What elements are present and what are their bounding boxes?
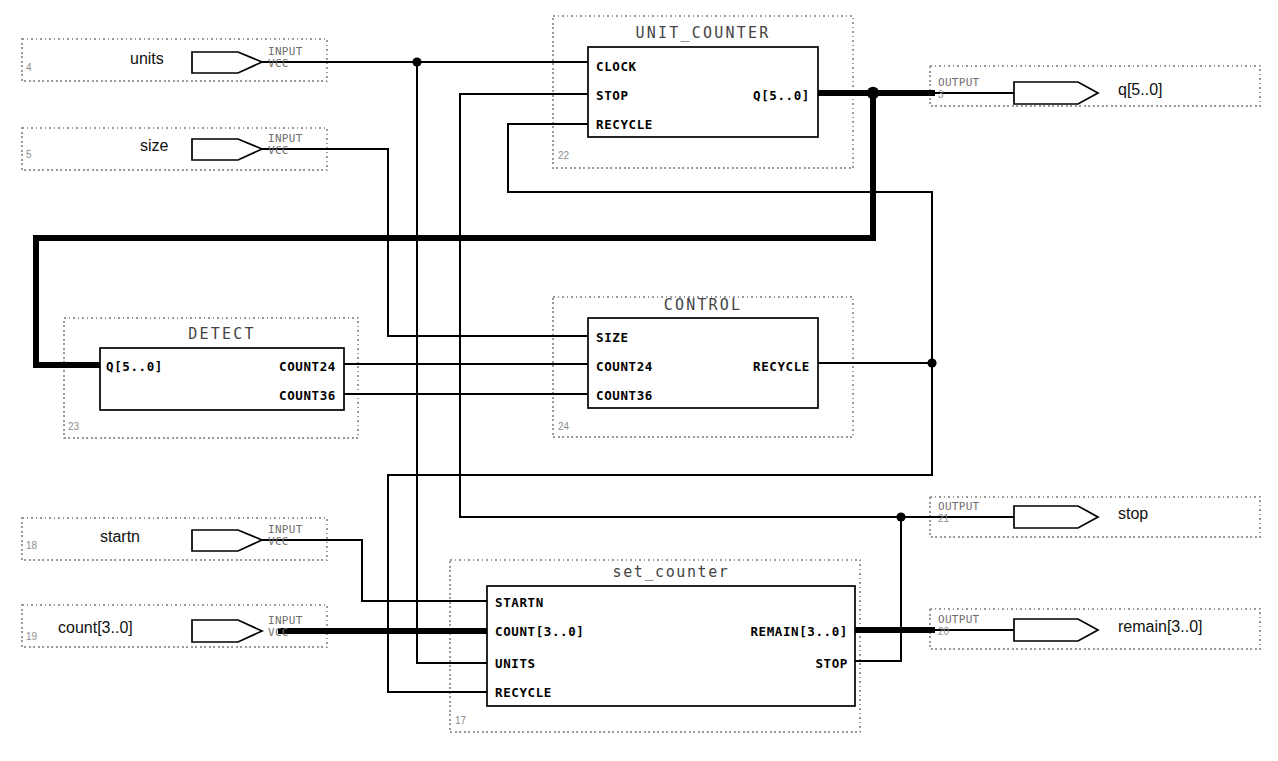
instance-id-control: 24 [558,421,569,432]
instance-id-unit-counter: 22 [558,150,569,161]
junction-units [412,57,421,66]
signal-name-count: count[3..0] [58,619,133,637]
port-unit-counter-clock: CLOCK [596,59,637,74]
port-control-count24: COUNT24 [596,359,653,374]
pin-type-units: INPUT [268,46,303,57]
block-title-unit-counter: UNIT_COUNTER [588,24,818,42]
pin-sub-count: VCC [268,627,289,638]
pin-type-remain: OUTPUT [938,614,980,625]
port-unit-counter-q: Q[5..0] [640,88,810,103]
pin-shape-remain[interactable] [1014,619,1098,641]
pin-type-q: OUTPUT [938,77,980,88]
port-set-counter-remain: REMAIN[3..0] [640,624,848,639]
pin-sub-startn: VCC [268,536,289,547]
net-size-to-control-size [262,149,588,336]
pin-type-stop: OUTPUT [938,501,980,512]
instance-id-output-stop: 21 [938,513,949,524]
pin-type-startn: INPUT [268,524,303,535]
instance-id-set-counter: 17 [455,715,466,726]
signal-name-q: q[5..0] [1118,81,1162,99]
net-set-counter-stop-out [855,517,901,661]
signal-name-startn: startn [100,528,140,546]
instance-id-input-startn: 18 [26,540,37,551]
port-control-recycle: RECYCLE [700,359,810,374]
pin-sub-size: VCC [268,145,289,156]
port-detect-count24: COUNT24 [180,359,336,374]
port-set-counter-units: UNITS [495,656,536,671]
instance-id-input-size: 5 [26,149,32,160]
instance-id-detect: 23 [68,421,79,432]
signal-name-stop: stop [1118,505,1148,523]
instance-id-input-units: 4 [26,62,32,73]
instance-id-output-q: 3 [938,89,944,100]
block-title-detect: DETECT [100,325,344,343]
instance-id-input-count: 19 [26,631,37,642]
port-unit-counter-recycle: RECYCLE [596,117,653,132]
pin-shape-units[interactable] [192,52,262,73]
pin-shape-count[interactable] [192,620,262,642]
net-startn-to-set-counter-startn [262,540,487,601]
pin-sub-units: VCC [268,58,289,69]
pin-shape-q[interactable] [1014,82,1098,104]
block-title-control: CONTROL [588,296,818,314]
pin-type-count: INPUT [268,615,303,626]
port-detect-count36: COUNT36 [180,388,336,403]
junction-q-bus [867,87,879,99]
net-units-to-set-counter-units [417,62,487,663]
pin-shape-stop[interactable] [1014,506,1098,528]
block-title-set-counter: set_counter [487,563,855,581]
signal-name-units: units [130,50,164,68]
port-set-counter-stop: STOP [700,656,848,671]
port-unit-counter-stop: STOP [596,88,629,103]
signal-name-size: size [140,137,168,155]
port-set-counter-count: COUNT[3..0] [495,624,584,639]
schematic-canvas: 4 units INPUT VCC 5 size INPUT VCC 18 st… [0,0,1278,761]
pin-shape-size[interactable] [192,139,262,160]
port-control-count36: COUNT36 [596,388,653,403]
port-set-counter-startn: STARTN [495,595,544,610]
pin-type-size: INPUT [268,133,303,144]
port-detect-q: Q[5..0] [106,359,163,374]
pin-shape-startn[interactable] [192,530,262,551]
schematic-wire-layer [0,0,1278,761]
port-control-size: SIZE [596,330,629,345]
port-set-counter-recycle: RECYCLE [495,685,552,700]
instance-id-output-remain: 20 [938,626,949,637]
signal-name-remain: remain[3..0] [1118,618,1202,636]
